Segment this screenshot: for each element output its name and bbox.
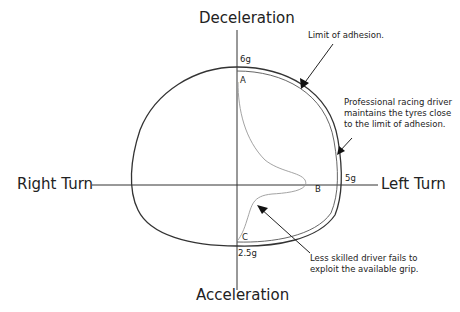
- axis-label-deceleration: Deceleration: [199, 9, 295, 27]
- point-label-c: C: [242, 232, 248, 242]
- annotation-limit-of-adhesion: Limit of adhesion.: [308, 30, 384, 41]
- annotation-pro-line-2: maintains the tyres close: [344, 108, 452, 119]
- axis-label-acceleration: Acceleration: [196, 286, 289, 304]
- annotation-less-line-2: exploit the available grip.: [310, 264, 419, 275]
- less-skilled-arrow-head: [257, 205, 268, 214]
- professional-driver-curve: [237, 71, 337, 242]
- annotation-pro-line-3: to the limit of adhesion.: [344, 119, 452, 130]
- value-label-top: 6g: [240, 54, 251, 64]
- point-label-a: A: [240, 75, 246, 85]
- annotation-professional-driver: Professional racing driver maintains the…: [344, 97, 452, 130]
- annotation-less-line-1: Less skilled driver fails to: [310, 253, 419, 264]
- less-skilled-arrow-line: [260, 208, 310, 253]
- limit-arrow-head: [300, 78, 309, 89]
- limit-of-adhesion-curve: [131, 67, 341, 246]
- limit-arrow-line: [303, 44, 333, 85]
- point-label-b: B: [315, 184, 321, 194]
- annotation-less-skilled-driver: Less skilled driver fails to exploit the…: [310, 253, 419, 275]
- axis-label-left-turn: Left Turn: [381, 175, 446, 193]
- annotation-pro-line-1: Professional racing driver: [344, 97, 452, 108]
- value-label-right: 5g: [345, 173, 356, 183]
- axis-label-right-turn: Right Turn: [17, 175, 93, 193]
- less-skilled-driver-curve: [238, 82, 306, 240]
- value-label-bottom: 2.5g: [238, 248, 257, 258]
